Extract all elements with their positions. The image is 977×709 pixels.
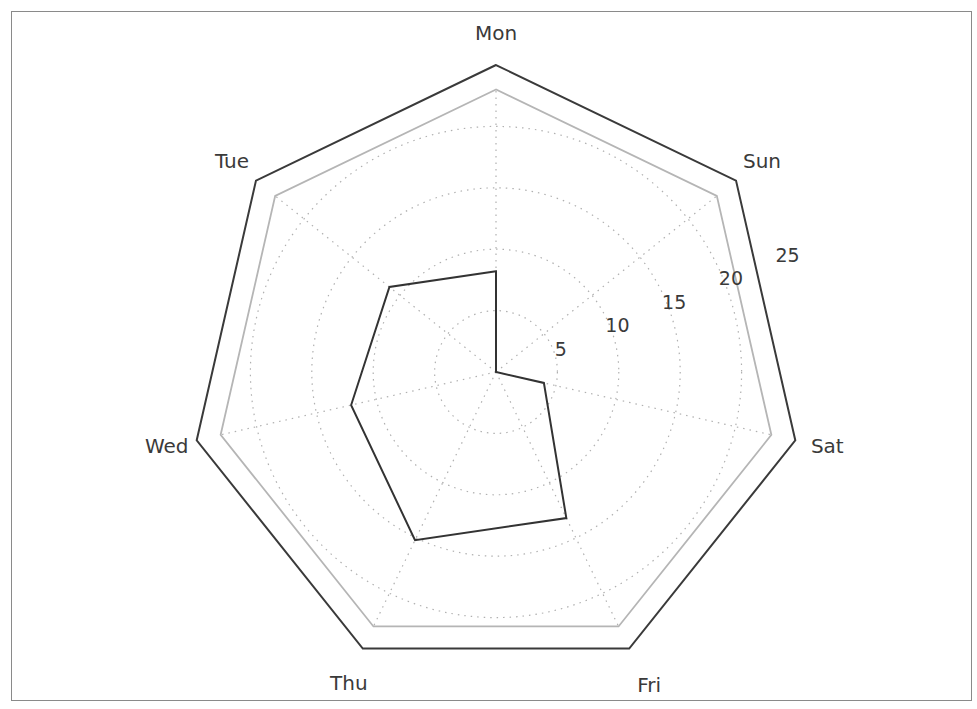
grid-spoke (373, 372, 496, 626)
radial-tick-label: 10 (605, 314, 629, 336)
axis-label-thu: Thu (329, 671, 368, 695)
axis-label-sun: Sun (743, 149, 781, 173)
grid-spoke (496, 196, 717, 372)
radar-chart-figure: MonTueWedThuFriSatSun 510152025 (0, 0, 977, 709)
axis-labels: MonTueWedThuFriSatSun (145, 21, 844, 697)
radar-chart: MonTueWedThuFriSatSun 510152025 (0, 0, 977, 709)
radial-tick-label: 20 (719, 267, 743, 289)
radial-tick-label: 25 (776, 244, 800, 266)
radial-tick-label: 5 (555, 338, 567, 360)
axis-label-sat: Sat (811, 434, 844, 458)
axis-label-fri: Fri (637, 673, 661, 697)
grid-spoke (275, 196, 496, 372)
grid-spoke (496, 372, 619, 626)
data-series (351, 271, 566, 540)
axis-label-tue: Tue (214, 149, 249, 173)
radial-tick-label: 15 (662, 291, 686, 313)
series-line (351, 271, 566, 540)
axis-label-wed: Wed (145, 434, 189, 458)
axis-label-mon: Mon (475, 21, 517, 45)
